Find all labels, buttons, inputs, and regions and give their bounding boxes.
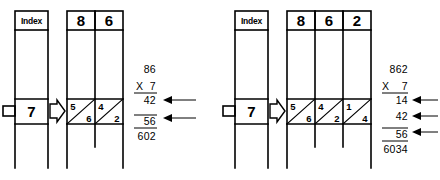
left-tab-icon <box>3 106 15 116</box>
lattice-cell-right-0-tens: 5 <box>290 101 296 112</box>
arith-partial-right-0: 14 <box>396 94 408 106</box>
arith-product-right: 6034 <box>383 143 408 155</box>
multiplier-left: 7 <box>27 103 35 120</box>
lattice-cell-right-1-ones: 2 <box>334 113 339 124</box>
arith-partial-right-1: 42 <box>396 110 408 122</box>
row-pointer-left <box>50 100 65 122</box>
lattice-cell-right-0-ones: 6 <box>306 113 311 124</box>
multiplicand-digit-right-2: 2 <box>353 12 361 29</box>
row-pointer-right <box>270 100 285 122</box>
lattice-cell-right-2-tens: 1 <box>346 101 352 112</box>
right-panel-index-bone <box>223 11 268 168</box>
left-tab-icon <box>223 106 235 116</box>
arith-product-left: 602 <box>138 130 156 142</box>
lattice-cell-right-1-tens: 4 <box>318 101 324 112</box>
partial-pointer-right-1 <box>412 96 438 104</box>
figure-canvas: Index 8 6 7 5 6 4 2 86 X 7 42 56 602 Ind… <box>0 0 440 180</box>
arith-partial-left-1: 56 <box>144 115 156 127</box>
lattice-cell-right-2-ones: 4 <box>362 113 368 124</box>
lattice-cell-left-1-tens: 4 <box>98 101 104 112</box>
partial-pointer-right-3 <box>412 128 438 136</box>
multiplicand-digit-right-0: 8 <box>297 12 305 29</box>
left-panel-digit-bones <box>67 11 123 168</box>
arith-partial-left-0: 42 <box>144 94 156 106</box>
right-panel-digit-bones <box>287 11 371 168</box>
multiplicand-digit-left-1: 6 <box>105 12 113 29</box>
partial-pointer-left-2 <box>163 114 196 122</box>
multiplicand-digit-left-0: 8 <box>77 12 85 29</box>
arith-multiplier-left: 7 <box>150 80 156 92</box>
lattice-cell-left-0-tens: 5 <box>70 101 76 112</box>
index-label-left: Index <box>21 16 43 26</box>
arith-operator-right: X <box>382 80 389 92</box>
arith-partial-right-2: 56 <box>396 128 408 140</box>
arith-multiplier-right: 7 <box>402 80 408 92</box>
arith-multiplicand-right: 862 <box>390 63 408 75</box>
lattice-cell-left-1-ones: 2 <box>114 113 119 124</box>
arith-multiplicand-left: 86 <box>144 63 156 75</box>
partial-pointer-left-1 <box>163 96 196 104</box>
index-label-right: Index <box>241 16 263 26</box>
multiplier-right: 7 <box>247 103 255 120</box>
arith-operator-left: X <box>136 80 143 92</box>
lattice-cell-left-0-ones: 6 <box>86 113 91 124</box>
left-panel-index-bone <box>3 11 48 168</box>
partial-pointer-right-2 <box>412 112 438 120</box>
diagram-svg: Index 8 6 7 5 6 4 2 86 X 7 42 56 602 Ind… <box>0 0 440 180</box>
multiplicand-digit-right-1: 6 <box>325 12 333 29</box>
